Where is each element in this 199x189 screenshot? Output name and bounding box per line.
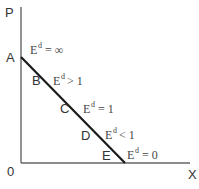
- point-d-label: D: [81, 128, 90, 143]
- svg-text:d: d: [135, 146, 139, 155]
- svg-text:> 1: > 1: [67, 74, 83, 88]
- svg-text:E: E: [105, 128, 112, 142]
- point-b-label: B: [32, 73, 41, 88]
- svg-text:E: E: [53, 74, 60, 88]
- point-e-label: E: [102, 148, 111, 163]
- elasticity-c: E d = 1: [83, 100, 114, 116]
- elasticity-b: E d > 1: [53, 72, 83, 88]
- svg-text:E: E: [83, 102, 90, 116]
- origin-label: 0: [7, 164, 14, 179]
- svg-text:E: E: [127, 148, 134, 162]
- x-axis-label: X: [188, 167, 197, 182]
- svg-text:< 1: < 1: [119, 128, 135, 142]
- svg-text:= 0: = 0: [142, 148, 158, 162]
- svg-text:= 1: = 1: [98, 102, 114, 116]
- svg-text:d: d: [91, 100, 95, 109]
- elasticity-e: E d = 0: [127, 146, 158, 162]
- svg-text:d: d: [61, 72, 65, 81]
- y-axis-label: P: [5, 5, 14, 20]
- elasticity-a: E d = ∞: [30, 41, 63, 57]
- svg-text:d: d: [38, 41, 42, 50]
- point-c-label: C: [60, 101, 69, 116]
- elasticity-d: E d < 1: [105, 126, 135, 142]
- svg-text:d: d: [113, 126, 117, 135]
- elasticity-diagram: P X 0 A B C D E E d = ∞ E d > 1 E d = 1 …: [0, 0, 199, 189]
- svg-text:= ∞: = ∞: [45, 43, 63, 57]
- svg-text:E: E: [30, 43, 37, 57]
- point-a-label: A: [6, 50, 15, 65]
